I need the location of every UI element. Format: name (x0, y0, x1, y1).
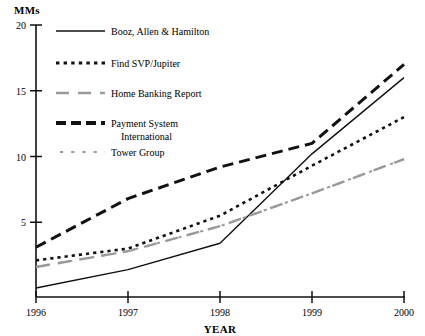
y-tick-label-15: 15 (16, 86, 26, 97)
y-tick-label-10: 10 (16, 152, 26, 163)
y-axis-unit-label: MMs (14, 4, 40, 16)
legend-swatches (56, 31, 105, 152)
x-tick-label-1997: 1997 (118, 307, 138, 318)
chart-canvas: MMs 20 15 10 5 1996 1997 1998 1999 2000 … (0, 0, 425, 336)
x-tick-label-1996: 1996 (26, 307, 46, 318)
line-chart: MMs 20 15 10 5 1996 1997 1998 1999 2000 … (0, 0, 425, 336)
legend-label-tower-group: Tower Group (111, 147, 164, 158)
series-layer (36, 64, 404, 288)
x-axis-title: YEAR (204, 323, 237, 335)
series-line-tower-group (36, 159, 404, 267)
series-line-payment-system-international (36, 64, 404, 247)
legend-label-booz-allen-hamilton: Booz, Allen & Hamilton (111, 26, 209, 37)
series-line-home-banking-report (36, 159, 404, 267)
legend-label-home-banking-report: Home Banking Report (111, 88, 202, 99)
axis-group (36, 25, 405, 297)
y-tick-label-20: 20 (16, 20, 26, 31)
legend-label-payment-system-international-line2: International (121, 131, 172, 142)
x-tick-label-1999: 1999 (302, 307, 322, 318)
y-tick-label-5: 5 (21, 217, 26, 228)
x-tick-label-2000: 2000 (394, 307, 414, 318)
legend-label-find-svp-jupiter: Find SVP/Jupiter (111, 58, 181, 69)
series-line-find-svp-jupiter (36, 117, 404, 260)
legend-label-payment-system-international-line1: Payment System (111, 118, 178, 129)
x-tick-label-1998: 1998 (210, 307, 230, 318)
